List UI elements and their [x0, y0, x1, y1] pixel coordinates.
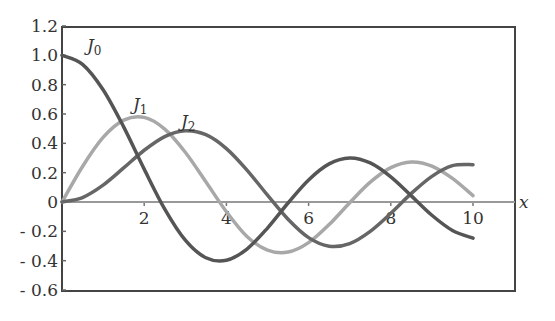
bessel-chart: 1.21.00.80.60.40.20- 0.2- 0.4- 0.6 24681…: [0, 0, 555, 321]
y-tick-label: 0.4: [31, 133, 58, 153]
label-j1: J1: [130, 94, 147, 117]
y-tick-label: 1.0: [31, 45, 58, 65]
x-axis-label: x: [519, 192, 529, 212]
x-tick-label: 10: [462, 208, 484, 228]
y-tick-label: - 0.4: [20, 251, 58, 271]
y-tick-label: 0.6: [31, 104, 58, 124]
series-line-j0: [62, 55, 473, 261]
y-tick-label: 0.8: [31, 75, 58, 95]
x-tick-label: 6: [303, 208, 314, 228]
series-lines: [62, 55, 473, 261]
y-tick-label: 1.2: [31, 16, 58, 36]
y-tick-label: 0.2: [31, 163, 58, 183]
y-axis-ticks: 1.21.00.80.60.40.20- 0.2- 0.4- 0.6: [20, 16, 66, 300]
label-j0: J0: [84, 35, 101, 58]
y-tick-label: - 0.6: [20, 280, 58, 300]
series-line-j1: [62, 117, 473, 253]
label-j2: J2: [178, 111, 195, 134]
y-tick-label: - 0.2: [20, 221, 58, 241]
y-tick-label: 0: [47, 192, 58, 212]
x-tick-label: 2: [139, 208, 150, 228]
